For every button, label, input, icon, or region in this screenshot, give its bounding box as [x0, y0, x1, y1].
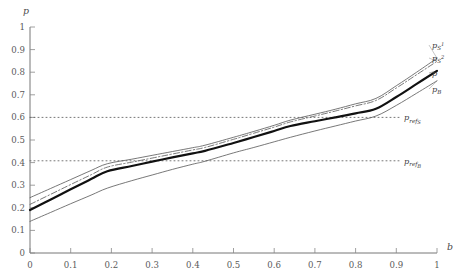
curve-labels-group: pS1pS2ppB — [429, 40, 444, 95]
y-tick-label: 0.6 — [11, 112, 25, 122]
curve-label-p_S1: pS1 — [432, 40, 444, 51]
reference-label-p_ref_S: prefS — [404, 112, 421, 125]
line-chart-svg: 00.10.20.30.40.50.60.70.80.91 00.10.20.3… — [0, 0, 461, 280]
x-tick-label: 0.4 — [186, 260, 200, 270]
x-axis-ticks: 00.10.20.30.40.50.60.70.80.91 — [27, 248, 439, 270]
y-tick-label: 0 — [20, 248, 25, 258]
curve-p_S1 — [30, 58, 437, 197]
x-tick-label: 0.3 — [145, 260, 159, 270]
curve-label-p: p — [432, 68, 438, 78]
curve-label-p_S2: pS2 — [432, 53, 444, 64]
y-tick-label: 0.2 — [11, 203, 25, 213]
y-tick-label: 0.7 — [11, 90, 25, 100]
x-tick-label: 0.7 — [308, 260, 322, 270]
curve-p_S2 — [30, 61, 437, 204]
x-tick-label: 0.5 — [227, 260, 241, 270]
y-tick-label: 0.4 — [11, 158, 25, 168]
y-axis-ticks: 00.10.20.30.40.50.60.70.80.91 — [11, 22, 35, 258]
reference-labels-group: prefSprefB — [404, 112, 421, 168]
y-tick-label: 0.3 — [11, 180, 25, 190]
y-tick-label: 0.8 — [11, 67, 25, 77]
y-tick-label: 1 — [20, 22, 25, 32]
y-tick-label: 0.9 — [11, 45, 25, 55]
x-tick-label: 0.8 — [349, 260, 363, 270]
curve-label-p_B: pB — [432, 84, 441, 95]
y-axis-title: p — [23, 5, 29, 16]
chart-figure: 00.10.20.30.40.50.60.70.80.91 00.10.20.3… — [0, 0, 461, 280]
curve-p_B — [30, 81, 437, 222]
y-tick-label: 0.5 — [11, 135, 25, 145]
y-tick-label: 0.1 — [11, 225, 25, 235]
x-tick-label: 0.9 — [389, 260, 403, 270]
x-tick-label: 0.6 — [267, 260, 281, 270]
x-tick-label: 0.1 — [64, 260, 78, 270]
curve-p — [30, 71, 437, 210]
x-tick-label: 0 — [27, 260, 32, 270]
x-axis-title: b — [447, 241, 453, 252]
x-tick-label: 0.2 — [105, 260, 119, 270]
reference-label-p_ref_B: prefB — [404, 156, 421, 169]
x-tick-label: 1 — [434, 260, 439, 270]
curves-group — [30, 58, 437, 221]
